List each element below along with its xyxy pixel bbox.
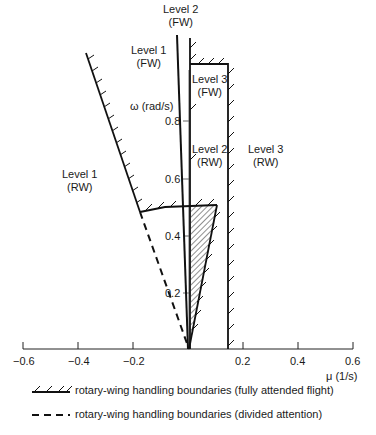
label-level3-rw: Level 3 (RW) — [248, 143, 283, 169]
x-tick-0.2: 0.2 — [235, 355, 250, 367]
x-axis-label: μ (1/s) — [326, 370, 357, 382]
y-tick-0.2: 0.2 — [165, 287, 180, 299]
legend-hatched-sample — [32, 386, 72, 392]
x-tick-neg0.2: −0.2 — [123, 355, 145, 367]
y-tick-0.4: 0.4 — [165, 230, 180, 242]
label-level1-fw: Level 1 (FW) — [131, 44, 166, 70]
label-level1-rw: Level 1 (RW) — [62, 168, 97, 194]
legend-item-divided-attention: rotary-wing handling boundaries (divided… — [75, 408, 322, 421]
y-tick-0.8: 0.8 — [165, 115, 180, 127]
y-axis-label: ω (rad/s) — [130, 100, 173, 112]
label-level2-fw: Level 2 (FW) — [163, 3, 198, 29]
legend-item-fully-attended: rotary-wing handling boundaries (fully a… — [75, 384, 334, 397]
label-level2-rw: Level 2 (RW) — [192, 143, 227, 169]
x-tick-neg0.6: −0.6 — [13, 355, 35, 367]
y-tick-0.6: 0.6 — [165, 173, 180, 185]
fw-level2-boundary — [177, 35, 188, 349]
x-tick-neg0.4: −0.4 — [68, 355, 90, 367]
x-tick-0.4: 0.4 — [290, 355, 305, 367]
x-tick-0.6: 0.6 — [345, 355, 360, 367]
label-level3-fw: Level 3 (FW) — [192, 73, 227, 99]
handling-qualities-diagram — [0, 0, 376, 435]
